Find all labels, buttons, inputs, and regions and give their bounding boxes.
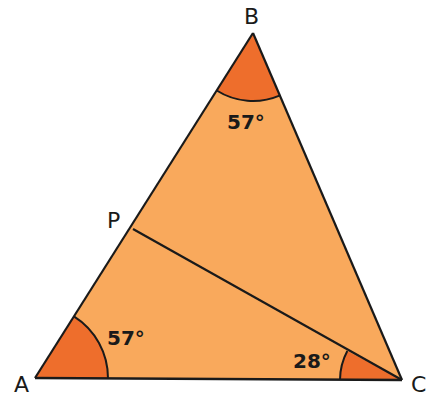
triangle-diagram: B A C P 57° 57° 28° [0, 0, 437, 401]
triangle-abc [35, 33, 402, 380]
diagram-canvas: B A C P 57° 57° 28° [0, 0, 437, 401]
angle-label-c: 28° [293, 349, 331, 373]
vertex-label-p: P [107, 208, 120, 233]
vertex-label-b: B [244, 4, 259, 29]
angle-b-sector [217, 33, 280, 101]
vertex-label-c: C [411, 372, 426, 397]
angle-label-a: 57° [107, 326, 145, 350]
angle-label-b: 57° [227, 110, 265, 134]
vertex-label-a: A [14, 372, 29, 397]
